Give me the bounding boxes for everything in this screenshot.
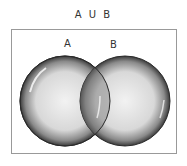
venn-diagram (0, 0, 187, 166)
